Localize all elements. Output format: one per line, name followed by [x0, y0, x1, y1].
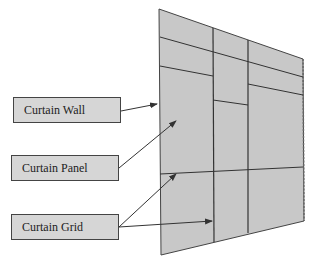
curtain-wall-shape — [159, 9, 304, 255]
label-curtain-panel-text: Curtain Panel — [22, 161, 88, 176]
label-curtain-grid-text: Curtain Grid — [22, 220, 83, 235]
label-curtain-wall: Curtain Wall — [13, 97, 121, 123]
label-curtain-grid: Curtain Grid — [11, 214, 119, 240]
label-curtain-wall-text: Curtain Wall — [24, 103, 85, 118]
curtain-wall-diagram: Curtain Wall Curtain Panel Curtain Grid — [0, 0, 312, 269]
arrow-curtain-wall — [121, 104, 157, 111]
label-curtain-panel: Curtain Panel — [11, 155, 119, 181]
